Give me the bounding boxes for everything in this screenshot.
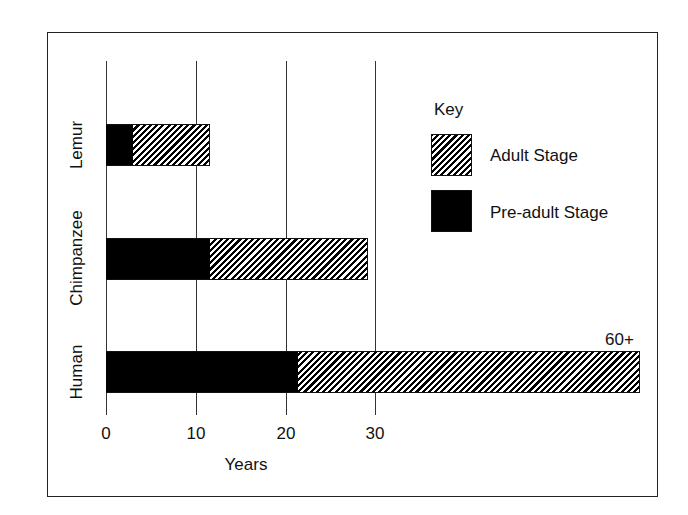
bar-human: [106, 351, 640, 393]
category-label-lemur: Lemur: [67, 121, 87, 169]
human-annotation: 60+: [605, 330, 634, 350]
x-tick-30: 30: [366, 424, 385, 444]
bar-chimpanzee-adult: [210, 239, 367, 279]
legend-swatch-pre-adult: [431, 190, 472, 232]
bar-human-adult: [298, 352, 639, 392]
category-label-chimpanzee: Chimpanzee: [67, 210, 87, 305]
legend-swatch-adult: [431, 134, 472, 176]
legend-label-adult: Adult Stage: [490, 146, 578, 166]
bar-human-pre-adult: [106, 352, 298, 392]
x-tick-10: 10: [187, 424, 206, 444]
legend-title: Key: [434, 100, 463, 120]
bar-chimpanzee: [106, 238, 368, 280]
x-axis-label: Years: [225, 455, 268, 475]
x-tick-0: 0: [101, 424, 110, 444]
bar-chimpanzee-pre-adult: [106, 239, 210, 279]
bar-lemur-pre-adult: [106, 125, 133, 165]
bar-lemur-adult: [133, 125, 209, 165]
bar-lemur: [106, 124, 210, 166]
category-label-human: Human: [67, 345, 87, 400]
x-tick-20: 20: [277, 424, 296, 444]
legend-label-pre-adult: Pre-adult Stage: [490, 203, 608, 223]
